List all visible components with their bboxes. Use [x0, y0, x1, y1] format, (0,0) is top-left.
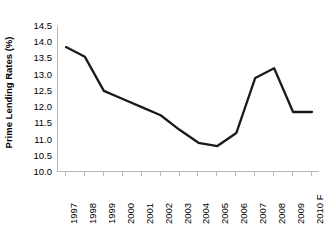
prime-lending-rate-line [66, 47, 312, 146]
y-axis-tick-label: 11.5 [34, 119, 52, 129]
x-axis-tick-label-text: 2004 [201, 203, 211, 224]
x-axis-tick-label-text: 2005 [220, 203, 230, 224]
x-axis-tick-label-text: 2009 [296, 203, 306, 224]
y-axis-tick-label: 12.0 [34, 102, 53, 112]
x-axis-tick-label-text: 1999 [107, 203, 117, 224]
y-axis-tick-label: 10.5 [34, 151, 53, 161]
x-axis-tick-label-text: 1997 [69, 203, 79, 224]
y-axis-tick-label: 12.5 [34, 86, 53, 96]
y-axis-tick-label: 11.0 [34, 135, 52, 145]
x-axis-tick-label-text: 2001 [145, 203, 155, 224]
x-axis-tick-label-text: 2002 [164, 203, 174, 224]
x-axis-tick-label-text: 2000 [126, 203, 136, 224]
x-axis-tick-label-text: 2006 [239, 203, 249, 224]
x-axis-tick-labels: 1997199819992000200120022003200420052006… [57, 176, 319, 227]
y-axis-tick-labels: 10.010.511.011.512.012.513.013.514.014.5 [18, 0, 56, 185]
y-axis-tick-label: 14.5 [34, 21, 53, 31]
y-axis-title-text: Prime Lending Rates (%) [4, 37, 15, 149]
y-axis-title: Prime Lending Rates (%) [0, 0, 18, 185]
y-axis-tick-label: 10.0 [34, 167, 53, 177]
x-axis-tick-label-text: 2003 [183, 203, 193, 224]
plot-area [57, 26, 319, 172]
chart-figure: Prime Lending Rates (%) 10.010.511.011.5… [0, 0, 330, 227]
x-axis-tick-label-text: 2010 F [315, 194, 325, 224]
x-axis-tick-label-text: 2007 [258, 203, 268, 224]
x-axis-tick-label-text: 2008 [277, 203, 287, 224]
y-axis-tick-label: 13.0 [34, 70, 53, 80]
y-axis-tick-label: 13.5 [34, 54, 53, 64]
y-axis-tick-label: 14.0 [34, 37, 53, 47]
x-axis-tick-label-text: 1998 [88, 203, 98, 224]
line-series-svg [58, 26, 320, 172]
